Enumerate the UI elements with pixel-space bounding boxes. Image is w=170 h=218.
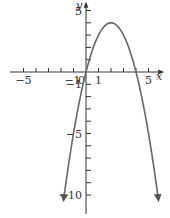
y-axis-label: y (75, 0, 83, 12)
x-tick-label: −5 (15, 74, 31, 87)
x-axis-label: x (156, 70, 163, 83)
parabola-curve (64, 23, 159, 201)
x-tick-label: 1 (95, 74, 102, 87)
parabola-graph: −5−10155−1−5−10 x y (0, 0, 170, 218)
y-tick-label: −10 (59, 189, 82, 202)
x-tick-label: 5 (145, 74, 152, 87)
tick-labels: −5−10155−1−5−10 (15, 5, 152, 203)
y-tick-label: −1 (66, 78, 82, 91)
